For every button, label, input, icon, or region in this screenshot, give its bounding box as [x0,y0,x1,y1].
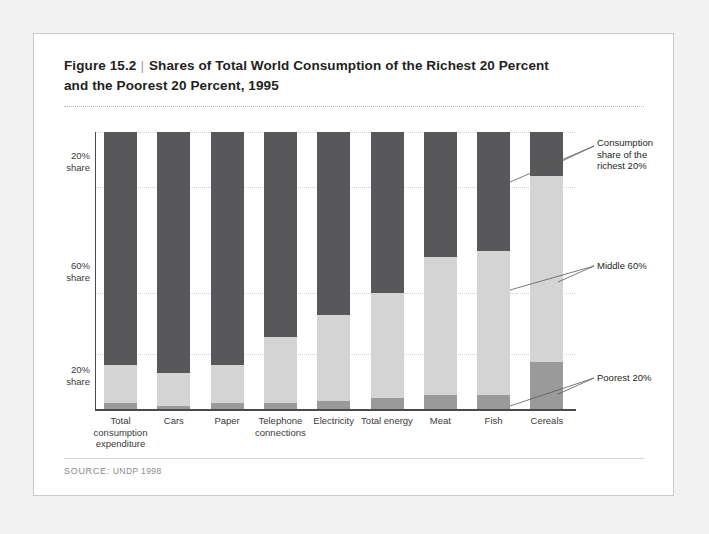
bar-segment-richest [104,132,137,365]
source-text: UNDP 1998 [113,466,162,476]
bar-segment-poorest [530,362,563,409]
bar-segment-middle [424,257,457,396]
bar-segment-poorest [371,398,404,409]
bar-segment-richest [371,132,404,293]
x-tick-label-cereals: Cereals [507,415,587,427]
bar-segment-middle [211,365,244,404]
bar-segment-richest [211,132,244,365]
y-tick-poorest: 20% share [38,364,90,387]
bar-segment-richest [530,132,563,176]
y-tick-richest: 20% share [38,150,90,173]
chart-plot-area: 20% share 60% share 20% share Totalconsu… [34,34,675,497]
bars-layer [96,132,576,409]
bar-segment-middle [264,337,297,403]
y-tick-middle: 60% share [38,260,90,283]
bar-segment-middle [530,176,563,362]
x-tick-label-line: consumption [81,427,161,439]
bar-segment-middle [317,315,350,401]
bar-segment-poorest [317,401,350,409]
bar-segment-richest [264,132,297,337]
y-tick-richest-line1: 20% [38,150,90,162]
bar-segment-poorest [157,406,190,409]
y-tick-richest-line2: share [38,162,90,174]
source-label: SOURCE: [64,466,110,476]
callout-richest-line3: richest 20% [597,160,669,172]
bar-segment-poorest [264,403,297,409]
bar-segment-middle [371,293,404,398]
bar-segment-poorest [211,403,244,409]
x-tick-label-line: Cereals [507,415,587,427]
x-tick-label-line: connections [240,427,320,439]
source-note: SOURCE: UNDP 1998 [64,466,162,476]
bar-segment-poorest [104,403,137,409]
callout-middle: Middle 60% [597,260,671,272]
x-tick-label-line: expenditure [81,438,161,450]
callout-poorest: Poorest 20% [597,372,671,384]
y-tick-poorest-line1: 20% [38,364,90,376]
y-tick-middle-line2: share [38,272,90,284]
figure-card: Figure 15.2|Shares of Total World Consum… [33,33,674,496]
bar-segment-poorest [477,395,510,409]
bar-segment-middle [157,373,190,406]
bar-segment-richest [157,132,190,373]
callout-richest-line2: share of the [597,149,669,161]
bar-segment-richest [317,132,350,315]
bar-segment-middle [104,365,137,404]
source-divider [64,458,644,459]
bar-segment-poorest [424,395,457,409]
bar-segment-richest [424,132,457,257]
x-axis-line [95,409,576,411]
bar-segment-middle [477,251,510,395]
y-tick-poorest-line2: share [38,376,90,388]
callout-richest-line1: Consumption [597,137,669,149]
callout-richest: Consumption share of the richest 20% [597,137,669,172]
y-tick-middle-line1: 60% [38,260,90,272]
bar-segment-richest [477,132,510,251]
